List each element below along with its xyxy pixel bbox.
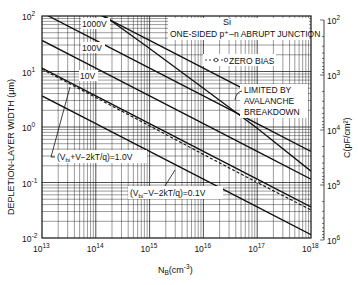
y-axis-label: DEPLETION-LAYER WIDTH (μm): [6, 79, 16, 215]
chart-title-line2: ONE-SIDED p⁺–n ABRUPT JUNCTION: [170, 29, 320, 39]
svg-text:1018: 1018: [302, 242, 319, 254]
breakdown-label-2: AVALANCHE: [244, 96, 295, 106]
label-1v-pointer: [51, 87, 70, 157]
label-10v: 10V: [80, 71, 95, 81]
right-axis: [320, 20, 324, 240]
breakdown-label-1: LIMITED BY: [244, 85, 292, 95]
svg-text:1014: 1014: [87, 242, 104, 254]
zero-bias-marker: [255, 180, 259, 184]
svg-text:10-2: 10-2: [22, 232, 38, 244]
svg-text:1013: 1013: [33, 242, 50, 254]
label-1000v: 1000V: [82, 19, 107, 29]
svg-text:101: 101: [22, 66, 35, 78]
svg-text:106: 106: [327, 234, 340, 246]
depletion-width-chart: Si ONE-SIDED p⁺–n ABRUPT JUNCTION ZERO B…: [0, 0, 358, 285]
svg-text:100: 100: [22, 121, 35, 133]
chart-title-line1: Si: [223, 17, 231, 27]
svg-text:1016: 1016: [194, 242, 211, 254]
label-100v: 100V: [82, 43, 102, 53]
y2-tick-labels: 102103104105106: [327, 14, 340, 246]
y-tick-labels: 10210110010-110-2: [22, 10, 38, 244]
x-axis-label: NB(cm-3): [158, 263, 193, 276]
svg-text:105: 105: [327, 179, 340, 191]
y2-axis-label: C(pF/cm²): [342, 118, 352, 159]
breakdown-label-3: BREAKDOWN: [244, 107, 300, 117]
svg-text:104: 104: [327, 124, 340, 136]
svg-text:10-1: 10-1: [22, 177, 38, 189]
svg-text:1015: 1015: [141, 242, 158, 254]
svg-text:102: 102: [327, 14, 340, 26]
x-tick-labels: 101310141015101610171018: [33, 242, 319, 254]
svg-text:1017: 1017: [248, 242, 265, 254]
svg-text:102: 102: [22, 10, 35, 22]
label-0-1v-pointer: [165, 170, 175, 186]
legend-zero-bias: ZERO BIAS: [229, 56, 275, 66]
svg-text:103: 103: [327, 69, 340, 81]
